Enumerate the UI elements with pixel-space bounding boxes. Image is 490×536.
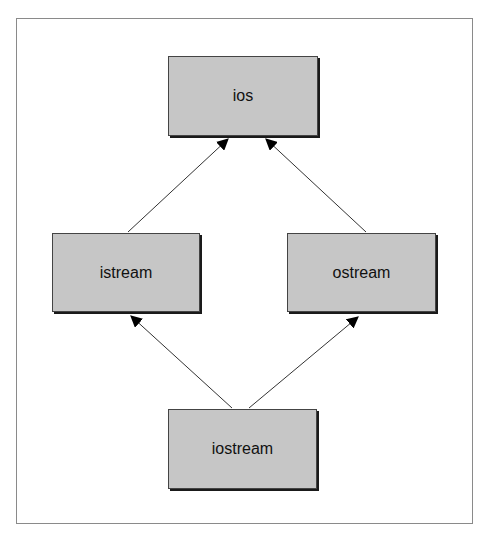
node-label: iostream [212, 440, 273, 458]
node-label: ios [233, 87, 253, 105]
arrow-ostream-to-ios [266, 139, 366, 232]
node-ostream: ostream [287, 233, 436, 312]
node-ios: ios [168, 56, 318, 136]
node-label: istream [100, 264, 152, 282]
node-label: ostream [333, 264, 391, 282]
arrow-istream-to-ios [128, 139, 228, 232]
arrow-iostream-to-istream [131, 316, 232, 408]
node-istream: istream [52, 233, 200, 312]
arrow-iostream-to-ostream [249, 317, 358, 408]
node-iostream: iostream [168, 409, 317, 489]
